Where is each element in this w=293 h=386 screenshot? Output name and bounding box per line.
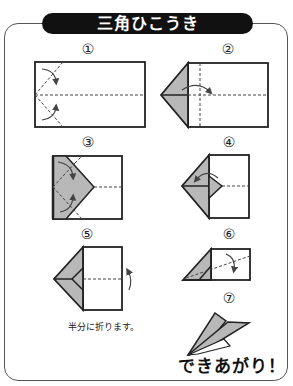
step-3-diagram	[53, 156, 122, 219]
step-5-caption: 半分に折ります。	[68, 320, 139, 333]
finish-label: できあがり！	[178, 352, 286, 377]
paper-airplane-icon	[188, 313, 249, 355]
step-1-diagram	[35, 62, 145, 127]
fold-arrow-icon	[128, 271, 131, 290]
step-4-diagram	[182, 155, 249, 218]
step-5-diagram	[54, 247, 131, 310]
origami-diagrams	[0, 0, 293, 386]
step-6-diagram	[183, 249, 250, 280]
step-2-diagram	[161, 63, 268, 127]
